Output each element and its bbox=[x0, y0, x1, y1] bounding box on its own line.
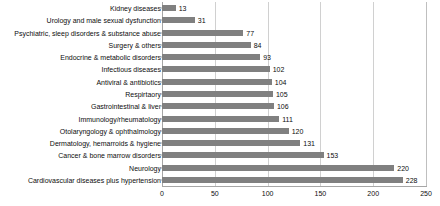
bar-row: Dermatology, hemarroids & hygiene131 bbox=[0, 137, 440, 149]
category-label: Respirtaory bbox=[125, 89, 161, 98]
bar-row: Otolaryngology & ophthalmology120 bbox=[0, 125, 440, 137]
category-label: Cardiovascular diseases plus hypertensio… bbox=[28, 175, 161, 184]
category-label: Psychiatric, sleep disorders & substance… bbox=[14, 28, 161, 37]
category-label: Urology and male sexual dysfunction bbox=[47, 16, 161, 25]
horizontal-bar-chart: Kidney diseases13Urology and male sexual… bbox=[0, 0, 440, 206]
bar-row: Urology and male sexual dysfunction31 bbox=[0, 14, 440, 26]
bar-value-label: 102 bbox=[273, 65, 285, 74]
bar-value-label: 106 bbox=[277, 102, 289, 111]
bar-rows: Kidney diseases13Urology and male sexual… bbox=[0, 0, 440, 186]
bar-value-label: 111 bbox=[282, 114, 293, 123]
category-label: Gastrointestinal & liver bbox=[91, 102, 161, 111]
bar-value-label: 13 bbox=[179, 4, 187, 13]
category-label: Endocrine & metabolic disorders bbox=[60, 53, 161, 62]
bar-value-label: 77 bbox=[246, 28, 254, 37]
x-tick-label-0: 0 bbox=[160, 189, 164, 199]
bar bbox=[162, 5, 176, 11]
bar-value-label: 84 bbox=[254, 40, 262, 49]
bar bbox=[162, 177, 403, 183]
bar bbox=[162, 140, 300, 146]
x-tick-label-150: 150 bbox=[315, 189, 327, 199]
category-label: Kidney diseases bbox=[110, 4, 161, 13]
bar-row: Psychiatric, sleep disorders & substance… bbox=[0, 27, 440, 39]
bar-row: Cancer & bone marrow disorders153 bbox=[0, 149, 440, 161]
category-label: Immunology/rheumatology bbox=[79, 114, 162, 123]
bar-row: Neurology220 bbox=[0, 161, 440, 173]
bar bbox=[162, 152, 324, 158]
bar-value-label: 228 bbox=[406, 175, 418, 184]
bar-value-label: 104 bbox=[275, 77, 287, 86]
x-tick-label-250: 250 bbox=[420, 189, 432, 199]
bar-row: Gastrointestinal & liver106 bbox=[0, 100, 440, 112]
bar-value-label: 153 bbox=[327, 151, 339, 160]
bar-value-label: 93 bbox=[263, 53, 271, 62]
bar-row: Cardiovascular diseases plus hypertensio… bbox=[0, 174, 440, 186]
category-label: Dermatology, hemarroids & hygiene bbox=[50, 139, 161, 148]
bar-row: Antiviral & antibiotics104 bbox=[0, 76, 440, 88]
bar bbox=[162, 66, 270, 72]
bar bbox=[162, 103, 274, 109]
category-label: Otolaryngology & ophthalmology bbox=[60, 126, 161, 135]
x-tick-label-50: 50 bbox=[211, 189, 219, 199]
x-axis-baseline bbox=[162, 186, 427, 187]
bar bbox=[162, 79, 272, 85]
category-label: Surgery & others bbox=[108, 40, 161, 49]
bar-value-label: 105 bbox=[276, 89, 288, 98]
bar-row: Infectious diseases102 bbox=[0, 63, 440, 75]
bar bbox=[162, 116, 279, 122]
x-axis-tick-labels: 050100150200250 bbox=[0, 189, 440, 203]
category-label: Neurology bbox=[129, 163, 161, 172]
bar bbox=[162, 54, 260, 60]
bar-value-label: 131 bbox=[303, 139, 315, 148]
bar-value-label: 31 bbox=[198, 16, 206, 25]
bar bbox=[162, 30, 243, 36]
bar bbox=[162, 165, 394, 171]
x-tick-label-200: 200 bbox=[367, 189, 379, 199]
bar bbox=[162, 42, 251, 48]
bar-value-label: 220 bbox=[397, 163, 409, 172]
category-label: Infectious diseases bbox=[101, 65, 161, 74]
bar-row: Immunology/rheumatology111 bbox=[0, 112, 440, 124]
category-label: Cancer & bone marrow disorders bbox=[58, 151, 161, 160]
bar-row: Surgery & others84 bbox=[0, 39, 440, 51]
bar-row: Endocrine & metabolic disorders93 bbox=[0, 51, 440, 63]
bar-row: Kidney diseases13 bbox=[0, 2, 440, 14]
bar-value-label: 120 bbox=[292, 126, 304, 135]
x-tick-label-100: 100 bbox=[262, 189, 274, 199]
bar-row: Respirtaory105 bbox=[0, 88, 440, 100]
category-label: Antiviral & antibiotics bbox=[96, 77, 161, 86]
bar bbox=[162, 91, 273, 97]
bar bbox=[162, 17, 195, 23]
bar bbox=[162, 128, 289, 134]
